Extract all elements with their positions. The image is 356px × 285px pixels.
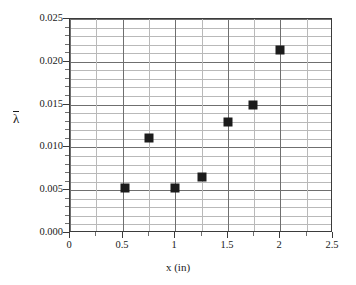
gridline-horizontal-major <box>70 105 331 106</box>
gridline-vertical-major <box>175 19 176 231</box>
x-axis-tick-major <box>174 232 175 238</box>
y-axis-tick-minor <box>65 206 69 207</box>
y-axis-tick-minor <box>65 155 69 156</box>
gridline-horizontal-minor <box>70 122 331 123</box>
data-point-marker <box>197 173 206 182</box>
gridline-horizontal-minor <box>70 113 331 114</box>
data-point-marker <box>144 133 153 142</box>
x-axis-tick-major <box>279 232 280 238</box>
scatter-chart-figure: 0.0000.0050.0100.0150.0200.02500.511.522… <box>0 0 356 285</box>
data-point-marker <box>276 45 285 54</box>
x-axis-tick-label: 2 <box>276 240 281 251</box>
y-axis-tick-minor <box>65 223 69 224</box>
y-axis-tick-label: 0.010 <box>39 141 63 152</box>
y-axis-tick-minor <box>65 44 69 45</box>
y-axis-tick-minor <box>65 35 69 36</box>
gridline-horizontal-major <box>70 19 331 20</box>
gridline-vertical-minor <box>254 19 255 231</box>
y-axis-tick-minor <box>65 52 69 53</box>
gridline-horizontal-minor <box>70 87 331 88</box>
y-axis-tick-label: 0.025 <box>39 13 63 24</box>
data-point-marker <box>249 101 258 110</box>
x-axis-tick-label: 1 <box>171 240 176 251</box>
y-axis-tick-minor <box>65 121 69 122</box>
x-axis-tick-label: 0.5 <box>115 240 128 251</box>
y-axis-tick-label: 0.015 <box>39 99 63 110</box>
y-axis-tick-minor <box>65 112 69 113</box>
y-axis-tick-minor <box>65 198 69 199</box>
y-axis-tick-major <box>63 146 69 147</box>
gridline-horizontal-major <box>70 147 331 148</box>
data-point-marker <box>171 183 180 192</box>
x-axis-tick-minor <box>148 232 149 236</box>
y-axis-tick-major <box>63 104 69 105</box>
y-axis-tick-minor <box>65 215 69 216</box>
gridline-horizontal-minor <box>70 199 331 200</box>
gridline-vertical-minor <box>149 19 150 231</box>
data-point-marker <box>120 183 129 192</box>
gridline-horizontal-minor <box>70 165 331 166</box>
x-axis-tick-major <box>69 232 70 238</box>
gridline-horizontal-minor <box>70 130 331 131</box>
gridline-vertical-major <box>70 19 71 231</box>
y-axis-title: λ <box>13 111 19 125</box>
gridline-horizontal-major <box>70 62 331 63</box>
gridline-horizontal-minor <box>70 207 331 208</box>
x-axis-tick-major <box>227 232 228 238</box>
gridline-horizontal-minor <box>70 96 331 97</box>
x-axis-tick-major <box>122 232 123 238</box>
gridline-horizontal-minor <box>70 79 331 80</box>
y-axis-tick-label: 0.000 <box>39 227 63 238</box>
gridline-horizontal-minor <box>70 182 331 183</box>
gridline-horizontal-minor <box>70 156 331 157</box>
x-axis-tick-label: 2.5 <box>325 240 338 251</box>
y-axis-tick-minor <box>65 181 69 182</box>
gridline-vertical-major <box>123 19 124 231</box>
gridline-vertical-minor <box>96 19 97 231</box>
gridline-horizontal-minor <box>70 70 331 71</box>
lambda-overbar-glyph: λ <box>13 111 19 125</box>
gridline-horizontal-minor <box>70 36 331 37</box>
x-axis-tick-label: 0 <box>66 240 71 251</box>
gridline-horizontal-minor <box>70 224 331 225</box>
gridline-vertical-minor <box>202 19 203 231</box>
y-axis-tick-minor <box>65 95 69 96</box>
gridline-horizontal-minor <box>70 45 331 46</box>
y-axis-tick-minor <box>65 86 69 87</box>
x-axis-tick-label: 1.5 <box>220 240 233 251</box>
x-axis-tick-minor <box>253 232 254 236</box>
x-axis-title: x (in) <box>0 262 356 273</box>
data-point-marker <box>223 117 232 126</box>
gridline-horizontal-minor <box>70 216 331 217</box>
y-axis-tick-minor <box>65 129 69 130</box>
x-axis-tick-major <box>332 232 333 238</box>
y-axis-tick-major <box>63 18 69 19</box>
y-axis-tick-major <box>63 189 69 190</box>
y-axis-tick-major <box>63 61 69 62</box>
y-axis-tick-minor <box>65 69 69 70</box>
plot-area <box>69 18 332 232</box>
x-axis-tick-minor <box>201 232 202 236</box>
y-axis-tick-minor <box>65 164 69 165</box>
y-axis-tick-minor <box>65 172 69 173</box>
gridline-vertical-minor <box>307 19 308 231</box>
y-axis-tick-label: 0.020 <box>39 56 63 67</box>
x-axis-tick-minor <box>95 232 96 236</box>
y-axis-tick-minor <box>65 78 69 79</box>
y-axis-tick-label: 0.005 <box>39 184 63 195</box>
gridline-horizontal-major <box>70 190 331 191</box>
x-axis-tick-minor <box>306 232 307 236</box>
gridline-horizontal-minor <box>70 28 331 29</box>
y-axis-tick-minor <box>65 27 69 28</box>
gridline-horizontal-minor <box>70 139 331 140</box>
gridline-horizontal-minor <box>70 53 331 54</box>
y-axis-tick-minor <box>65 138 69 139</box>
